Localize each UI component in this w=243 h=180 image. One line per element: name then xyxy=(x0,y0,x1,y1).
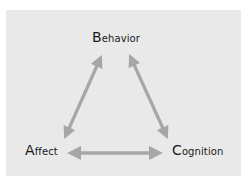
node-behavior-rest: ehavior xyxy=(102,33,140,44)
node-behavior: Behavior xyxy=(92,29,140,45)
node-cognition-rest: ognition xyxy=(182,146,224,157)
node-affect-rest: ffect xyxy=(35,146,58,157)
node-affect-initial: A xyxy=(25,142,35,158)
node-cognition-initial: C xyxy=(172,142,182,158)
arrow-behavior-affect xyxy=(66,59,100,135)
node-affect: Affect xyxy=(25,142,58,158)
node-cognition: Cognition xyxy=(172,142,223,158)
arrow-behavior-cognition xyxy=(131,58,166,135)
node-behavior-initial: B xyxy=(92,29,102,45)
